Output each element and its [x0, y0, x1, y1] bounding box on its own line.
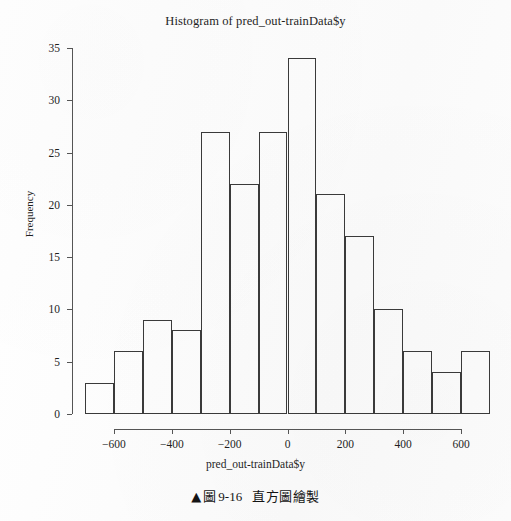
y-tick-mark: [67, 205, 72, 206]
x-tick-mark: [403, 429, 404, 434]
x-tick-mark: [345, 429, 346, 434]
histogram-bar: [374, 309, 403, 414]
x-tick-mark: [172, 429, 173, 434]
histogram-bar: [316, 194, 345, 414]
y-tick-mark: [67, 362, 72, 363]
x-tick-label: −400: [142, 438, 202, 450]
y-tick-mark: [67, 414, 72, 415]
histogram-bar: [230, 184, 259, 414]
x-tick-label: 400: [373, 438, 433, 450]
histogram-bar: [432, 372, 461, 414]
x-tick-label: −200: [200, 438, 260, 450]
y-tick-label: 5: [26, 356, 60, 368]
y-tick-label: 30: [26, 94, 60, 106]
histogram-bar: [114, 351, 143, 414]
y-tick-mark: [67, 48, 72, 49]
y-tick-label: 10: [26, 303, 60, 315]
x-tick-mark: [461, 429, 462, 434]
x-tick-mark: [230, 429, 231, 434]
caption-number: 9-16: [218, 489, 242, 504]
x-tick-label: 200: [315, 438, 375, 450]
histogram-bar: [201, 132, 230, 414]
y-tick-label: 25: [26, 147, 60, 159]
caption-marker-icon: ▲: [191, 489, 201, 504]
y-tick-label: 20: [26, 199, 60, 211]
y-tick-mark: [67, 257, 72, 258]
x-tick-mark: [114, 429, 115, 434]
histogram-bar: [172, 330, 201, 414]
x-tick-mark: [288, 429, 289, 434]
histogram-bar: [85, 383, 114, 414]
x-tick-label: 600: [431, 438, 491, 450]
y-tick-mark: [67, 100, 72, 101]
y-tick-label: 0: [26, 408, 60, 420]
x-tick-label: 0: [258, 438, 318, 450]
figure-caption: ▲圖9-16直方圖繪製: [0, 486, 511, 505]
histogram-bar: [259, 132, 288, 414]
histogram-bar: [288, 58, 317, 414]
x-axis-title: pred_out-trainData$y: [0, 458, 511, 470]
histogram-bar: [345, 236, 374, 414]
y-tick-label: 15: [26, 251, 60, 263]
y-tick-label: 35: [26, 42, 60, 54]
y-axis-line: [72, 48, 73, 414]
histogram-plot: Frequency pred_out-trainData$y 051015202…: [0, 0, 511, 521]
histogram-bar: [461, 351, 490, 414]
y-tick-mark: [67, 153, 72, 154]
caption-label: 圖: [203, 489, 216, 504]
histogram-bar: [403, 351, 432, 414]
histogram-bar: [143, 320, 172, 414]
caption-text: 直方圖繪製: [252, 489, 320, 504]
figure-page: Histogram of pred_out-trainData$y Freque…: [0, 0, 511, 521]
y-tick-mark: [67, 309, 72, 310]
x-tick-label: −600: [84, 438, 144, 450]
